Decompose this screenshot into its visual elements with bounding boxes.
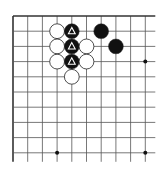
white-stone[interactable] (64, 69, 79, 84)
white-stone[interactable] (79, 39, 94, 54)
star-point (143, 60, 147, 64)
black-stone[interactable] (94, 24, 109, 39)
star-point (55, 151, 59, 155)
white-stone[interactable] (50, 54, 65, 69)
go-board[interactable] (0, 0, 166, 174)
board-grid (13, 16, 155, 162)
black-stone[interactable] (109, 39, 124, 54)
black-stone[interactable] (64, 39, 79, 54)
star-point (143, 151, 147, 155)
white-stone[interactable] (50, 39, 65, 54)
white-stone[interactable] (50, 24, 65, 39)
black-stone[interactable] (64, 54, 79, 69)
black-stone[interactable] (64, 24, 79, 39)
white-stone[interactable] (79, 54, 94, 69)
